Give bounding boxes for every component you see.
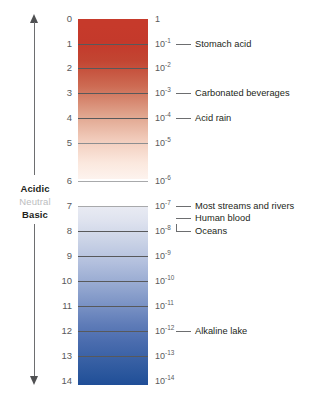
concentration-exponent-3: -3: [165, 86, 171, 93]
ph-value-2: 2: [48, 63, 72, 73]
concentration-value-5: 10-5: [155, 138, 171, 148]
concentration-exponent-7: -7: [165, 199, 171, 206]
acidic-gradient-bar: [78, 19, 148, 179]
concentration-value-8: 10-8: [155, 226, 171, 236]
leader-line-carbonated-beverages: [176, 93, 191, 94]
concentration-exponent-10: -10: [165, 274, 174, 281]
tick-line-ph-7: [78, 206, 148, 207]
tick-line-ph-10: [78, 281, 148, 282]
concentration-mantissa-0: 1: [155, 14, 160, 24]
tick-line-ph-13: [78, 356, 148, 357]
concentration-exponent-5: -5: [165, 136, 171, 143]
basic-gradient-bar: [78, 206, 148, 385]
annotation-alkaline-lake: Alkaline lake: [195, 326, 247, 336]
ph-value-14: 14: [48, 376, 72, 386]
tick-line-ph-2: [78, 68, 148, 69]
tick-line-ph-5: [78, 143, 148, 144]
concentration-exponent-2: -2: [165, 61, 171, 68]
concentration-value-12: 10-12: [155, 326, 174, 336]
concentration-base-11: 10: [155, 301, 165, 311]
concentration-exponent-14: -14: [165, 374, 174, 381]
leader-line-most-streams-and-rivers: [176, 206, 191, 207]
annotation-human-blood: Human blood: [195, 213, 250, 223]
tick-line-ph-6: [78, 181, 148, 182]
ph-value-11: 11: [48, 301, 72, 311]
concentration-value-2: 10-2: [155, 63, 171, 73]
concentration-base-6: 10: [155, 176, 165, 186]
tick-line-ph-8: [78, 231, 148, 232]
concentration-value-3: 10-3: [155, 88, 171, 98]
annotation-most-streams-and-rivers: Most streams and rivers: [195, 201, 294, 211]
concentration-exponent-6: -6: [165, 174, 171, 181]
concentration-base-1: 10: [155, 39, 165, 49]
concentration-value-14: 10-14: [155, 376, 174, 386]
annotation-oceans: Oceans: [195, 226, 227, 236]
concentration-base-3: 10: [155, 88, 165, 98]
concentration-base-2: 10: [155, 63, 165, 73]
concentration-exponent-11: -11: [165, 299, 174, 306]
concentration-value-10: 10-10: [155, 276, 174, 286]
concentration-exponent-8: -8: [165, 224, 171, 231]
concentration-exponent-12: -12: [165, 324, 174, 331]
ph-value-10: 10: [48, 276, 72, 286]
tick-line-ph-9: [78, 256, 148, 257]
concentration-base-5: 10: [155, 138, 165, 148]
ph-value-13: 13: [48, 351, 72, 361]
concentration-base-10: 10: [155, 276, 165, 286]
ph-value-6: 6: [48, 176, 72, 186]
annotation-carbonated-beverages: Carbonated beverages: [195, 88, 290, 98]
leader-line-acid-rain: [176, 118, 191, 119]
ph-value-3: 3: [48, 88, 72, 98]
tick-line-ph-4: [78, 118, 148, 119]
concentration-base-9: 10: [155, 251, 165, 261]
ph-value-9: 9: [48, 251, 72, 261]
concentration-value-1: 10-1: [155, 39, 171, 49]
concentration-base-8: 10: [155, 226, 165, 236]
ph-value-7: 7: [48, 201, 72, 211]
concentration-value-7: 10-7: [155, 201, 171, 211]
concentration-exponent-4: -4: [165, 111, 171, 118]
leader-line-human-blood: [176, 218, 191, 219]
concentration-base-14: 10: [155, 376, 165, 386]
concentration-value-9: 10-9: [155, 251, 171, 261]
tick-line-ph-1: [78, 44, 148, 45]
ph-value-1: 1: [48, 39, 72, 49]
annotation-stomach-acid: Stomach acid: [195, 39, 251, 49]
ph-value-12: 12: [48, 326, 72, 336]
annotation-acid-rain: Acid rain: [195, 113, 231, 123]
concentration-base-4: 10: [155, 113, 165, 123]
leader-line-stomach-acid: [176, 44, 191, 45]
tick-line-ph-11: [78, 306, 148, 307]
ph-value-0: 0: [48, 14, 72, 24]
tick-line-ph-12: [78, 331, 148, 332]
concentration-base-13: 10: [155, 351, 165, 361]
concentration-value-11: 10-11: [155, 301, 174, 311]
concentration-base-12: 10: [155, 326, 165, 336]
ph-scale-diagram: Acidic Neutral Basic 0 1 2 3 4 5 6 7 8 9…: [0, 0, 323, 400]
ph-value-5: 5: [48, 138, 72, 148]
ph-value-8: 8: [48, 226, 72, 236]
concentration-value-0: 1: [155, 14, 160, 24]
arrow-down-icon: [30, 376, 38, 385]
tick-line-ph-3: [78, 93, 148, 94]
concentration-value-13: 10-13: [155, 351, 174, 361]
concentration-exponent-1: -1: [165, 37, 171, 44]
leader-line-alkaline-lake: [176, 331, 191, 332]
concentration-value-6: 10-6: [155, 176, 171, 186]
concentration-exponent-9: -9: [165, 249, 171, 256]
ph-value-4: 4: [48, 113, 72, 123]
acidic-axis-line: [34, 22, 35, 175]
concentration-value-4: 10-4: [155, 113, 171, 123]
concentration-base-7: 10: [155, 201, 165, 211]
basic-axis-line: [34, 224, 35, 377]
leader-bracket-horizontal-oceans: [176, 231, 191, 232]
concentration-exponent-13: -13: [165, 349, 174, 356]
